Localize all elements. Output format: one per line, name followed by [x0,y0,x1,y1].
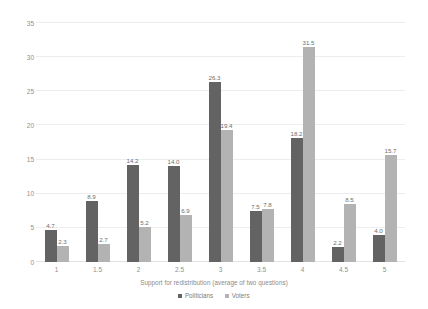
bar-pair: 4.015.7 [364,23,405,262]
bar-voters: 31.5 [303,47,315,262]
x-axis-tick: 1 [55,265,59,274]
bar-value-label: 7.5 [251,203,260,210]
bar-value-label: 6.9 [181,207,190,214]
bar-value-label: 19.4 [220,122,232,129]
y-axis-tick: 25 [8,88,34,95]
bar-voters: 2.3 [57,246,69,262]
bar-group: 18.231.5 [282,23,323,262]
bar-value-label: 15.7 [384,147,396,154]
bar-value-label: 4.0 [374,227,383,234]
x-axis-tick-labels: 11.522.533.544.55 [36,265,405,277]
bar-group: 14.06.9 [159,23,200,262]
bar-group: 8.92.7 [77,23,118,262]
bar-value-label: 4.7 [46,222,55,229]
bar-pair: 8.92.7 [77,23,118,262]
bar-value-label: 2.2 [333,239,342,246]
bar-pair: 18.231.5 [282,23,323,262]
x-axis-tick: 1.5 [93,265,102,274]
bar-pair: 14.25.2 [118,23,159,262]
bar-voters: 15.7 [385,155,397,262]
bar-politicians: 14.0 [168,166,180,262]
bar-politicians: 2.2 [332,247,344,262]
bar-voters: 8.5 [344,204,356,262]
legend-label: Voters [232,292,250,299]
bar-value-label: 2.3 [58,238,67,245]
x-axis-tick: 3 [219,265,223,274]
bar-group: 4.72.3 [36,23,77,262]
bar-politicians: 4.7 [45,230,57,262]
bar-value-label: 31.5 [302,39,314,46]
bar-value-label: 26.3 [208,74,220,81]
bar-value-label: 5.2 [140,219,149,226]
bar-value-label: 14.2 [126,157,138,164]
bar-voters: 5.2 [139,227,151,263]
bar-group: 4.015.7 [364,23,405,262]
bar-group: 2.28.5 [323,23,364,262]
legend-item-politicians: Politicians [178,292,213,299]
bar-value-label: 2.7 [99,236,108,243]
y-axis-tick: 15 [8,156,34,163]
bar-value-label: 8.5 [345,196,354,203]
bar-pair: 7.57.8 [241,23,282,262]
legend-swatch-icon [178,294,182,298]
y-axis-tick: 5 [8,224,34,231]
x-axis-title: Support for redistribution (average of t… [0,279,428,286]
bar-group: 14.25.2 [118,23,159,262]
y-axis-tick: 30 [8,54,34,61]
x-axis-tick: 2 [137,265,141,274]
bar-pair: 2.28.5 [323,23,364,262]
bar-politicians: 7.5 [250,211,262,262]
bar-politicians: 26.3 [209,82,221,262]
bar-group: 26.319.4 [200,23,241,262]
y-axis-tick: 0 [8,259,34,266]
bar-politicians: 14.2 [127,165,139,262]
x-axis-tick: 2.5 [175,265,184,274]
bar-value-label: 7.8 [263,201,272,208]
chart-legend: PoliticiansVoters [0,292,428,299]
bar-voters: 6.9 [180,215,192,262]
bar-group: 7.57.8 [241,23,282,262]
bar-voters: 7.8 [262,209,274,262]
bar-politicians: 18.2 [291,138,303,262]
bar-politicians: 8.9 [86,201,98,262]
bar-voters: 19.4 [221,130,233,262]
bar-chart: Percentage 05101520253035 4.72.38.92.714… [0,0,428,309]
y-axis-tick: 35 [8,20,34,27]
bar-pair: 26.319.4 [200,23,241,262]
plot-area: 4.72.38.92.714.25.214.06.926.319.47.57.8… [36,23,405,262]
legend-swatch-icon [225,294,229,298]
bar-pair: 4.72.3 [36,23,77,262]
bar-voters: 2.7 [98,244,110,262]
x-axis-tick: 4.5 [339,265,348,274]
legend-label: Politicians [185,292,213,299]
legend-item-voters: Voters [225,292,249,299]
x-axis-tick: 3.5 [257,265,266,274]
bar-value-label: 18.2 [290,130,302,137]
bar-value-label: 8.9 [87,193,96,200]
bar-value-label: 14.0 [167,158,179,165]
bar-politicians: 4.0 [373,235,385,262]
x-axis-tick: 4 [301,265,305,274]
y-axis-tick: 20 [8,122,34,129]
bar-pair: 14.06.9 [159,23,200,262]
y-axis-tick-labels: 05101520253035 [0,23,34,262]
y-axis-tick: 10 [8,190,34,197]
x-axis-tick: 5 [383,265,387,274]
